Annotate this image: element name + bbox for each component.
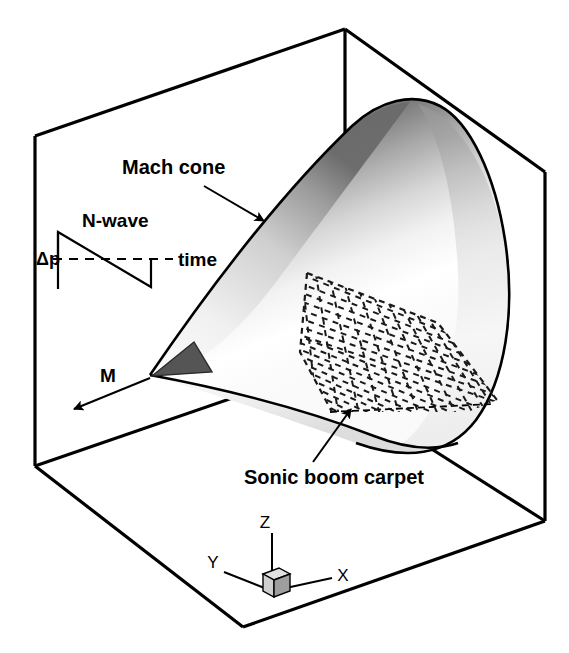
label-mach-number: M bbox=[100, 365, 116, 386]
room-edge-back-left-top bbox=[35, 29, 345, 136]
label-sonic-boom-carpet: Sonic boom carpet bbox=[244, 466, 424, 488]
n-wave-signature bbox=[58, 232, 151, 289]
label-mach-cone: Mach cone bbox=[122, 156, 225, 178]
room-edge-floor-back-right bbox=[430, 448, 545, 521]
n-wave-inset bbox=[53, 232, 173, 289]
diagram-canvas: Mach cone N-wave Δp time M Sonic boom ca… bbox=[0, 0, 569, 653]
mach-cone bbox=[150, 99, 509, 453]
label-time: time bbox=[178, 249, 217, 270]
label-axis-y: Y bbox=[207, 553, 218, 572]
label-axis-x: X bbox=[337, 566, 348, 585]
coordinate-triad bbox=[224, 533, 332, 597]
label-delta-p: Δp bbox=[36, 249, 60, 269]
label-n-wave: N-wave bbox=[82, 210, 149, 231]
room-edge-floor-left bbox=[35, 466, 243, 627]
figure-root: Mach cone N-wave Δp time M Sonic boom ca… bbox=[0, 0, 569, 653]
origin-cube-icon bbox=[263, 568, 290, 597]
label-axis-z: Z bbox=[260, 513, 270, 532]
mach-cone-leader bbox=[204, 186, 264, 221]
